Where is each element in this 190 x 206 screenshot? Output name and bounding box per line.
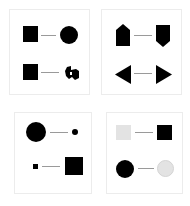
triangle-right-icon xyxy=(156,65,172,84)
connector-line xyxy=(42,166,60,167)
small-circle-icon xyxy=(72,129,78,135)
filled-circle-icon xyxy=(60,26,78,44)
irregular-blob-icon xyxy=(64,65,80,81)
black-square-icon xyxy=(157,125,172,140)
large-square-icon xyxy=(65,157,83,175)
black-circle-icon xyxy=(116,160,134,178)
pentagon-arrow-up-icon xyxy=(116,24,130,46)
large-circle-icon xyxy=(26,122,46,142)
pentagon-arrow-down-icon xyxy=(156,25,170,47)
panel-shape-change xyxy=(9,9,90,95)
connector-line xyxy=(41,35,56,36)
panel-orientation-change xyxy=(101,9,182,95)
small-square-icon xyxy=(33,164,38,169)
connector-line xyxy=(135,132,153,133)
filled-square-icon xyxy=(23,26,38,42)
connector-line xyxy=(134,73,152,74)
connector-line xyxy=(41,72,59,73)
triangle-left-icon xyxy=(115,65,131,84)
panel-size-change xyxy=(14,112,92,194)
panel-color-change xyxy=(106,112,183,194)
light-gray-circle-icon xyxy=(157,160,174,177)
connector-line xyxy=(138,168,154,169)
connector-line xyxy=(50,132,68,133)
connector-line xyxy=(134,35,152,36)
filled-square-icon xyxy=(23,64,38,80)
light-gray-square-icon xyxy=(116,125,131,140)
